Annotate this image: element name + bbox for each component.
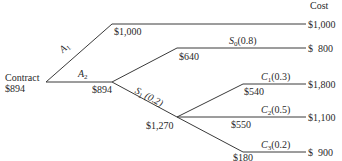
branch-s0-prob: (0.8) xyxy=(238,35,257,46)
node-value-c1: $540 xyxy=(244,87,264,97)
branch-c1-name: C xyxy=(261,71,268,82)
branch-label-s0: S0(0.8) xyxy=(229,36,257,49)
node-value-a1: $1,000 xyxy=(114,27,142,37)
cost-header: Cost xyxy=(310,1,328,11)
root-value: $894 xyxy=(5,84,25,94)
terminal-cost-s0: $ 800 xyxy=(308,44,333,54)
terminal-cost-c2: $1,100 xyxy=(308,113,336,123)
node-value-a2: $894 xyxy=(92,85,112,95)
root-label: Contract xyxy=(5,73,39,83)
branch-c1-prob: (0.3) xyxy=(271,71,290,82)
branch-label-c2: C2(0.5) xyxy=(261,105,290,118)
node-value-s0: $640 xyxy=(179,52,199,62)
decision-tree-lines xyxy=(0,0,342,161)
terminal-cost-c3: $ 900 xyxy=(308,148,333,158)
node-value-s1: $1,270 xyxy=(146,121,174,131)
branch-a2-sub: 2 xyxy=(84,73,88,81)
node-value-c2: $550 xyxy=(231,120,251,130)
branch-label-a2: A2 xyxy=(78,69,88,82)
branch-c2-name: C xyxy=(261,104,268,115)
terminal-cost-a1: $1,000 xyxy=(308,20,336,30)
branch-label-c1: C1(0.3) xyxy=(261,72,290,85)
node-value-c3: $180 xyxy=(233,153,253,161)
branch-c2-prob: (0.5) xyxy=(271,104,290,115)
terminal-cost-c1: $1,800 xyxy=(308,80,336,90)
branch-c3-prob: (0.2) xyxy=(271,139,290,150)
branch-label-c3: C3(0.2) xyxy=(261,140,290,153)
branch-c3-name: C xyxy=(261,139,268,150)
